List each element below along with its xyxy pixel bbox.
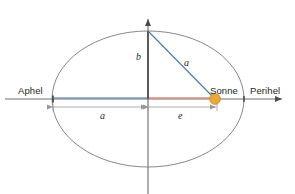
sonne-label: Sonne [210,86,238,96]
semi-major-dimension-label: a [100,111,105,121]
orbital-radius-line [148,31,214,98]
eccentricity-dimension-label: e [178,111,182,121]
perihel-label: Perihel [250,86,280,96]
orbital-radius-label: a [184,58,189,68]
semi-minor-axis-label: b [136,52,141,62]
ellipse-orbit-figure [0,0,295,194]
aphel-label: Aphel [18,86,43,96]
diagram-canvas: Aphel Sonne Perihel b a a e [0,0,295,194]
